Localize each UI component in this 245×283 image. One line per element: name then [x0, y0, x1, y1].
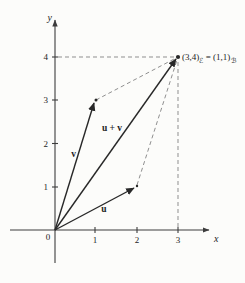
points [95, 55, 181, 187]
y-tick-label-3: 3 [44, 95, 49, 105]
point-1-3-dot [95, 99, 98, 102]
point-annotation-basis1: ℰ [199, 57, 203, 64]
vector-addition-figure: x y 0 1 2 3 1 2 3 4 v u u + v (3,4)ℰ= (1… [0, 0, 245, 283]
dashed-guide-parallelogram-right [137, 60, 177, 185]
point-2-1-dot [136, 185, 138, 187]
point-annotation-basis2: ℬ [231, 57, 237, 64]
vector-v-label: v [71, 149, 76, 159]
vector-u-label: u [101, 204, 107, 214]
point-3-4-dot [176, 55, 180, 59]
y-tick-label-4: 4 [44, 52, 49, 62]
origin-label: 0 [46, 232, 51, 242]
x-tick-label-1: 1 [93, 235, 98, 245]
vector-u-line [55, 188, 134, 230]
figure-canvas: x y 0 1 2 3 1 2 3 4 v u u + v (3,4)ℰ= (1… [0, 0, 245, 283]
y-axis-label: y [47, 12, 53, 23]
point-annotation-coords: (3,4) [182, 52, 199, 62]
x-tick-label-2: 2 [135, 235, 140, 245]
vector-u-plus-v-label: u + v [102, 123, 122, 133]
y-tick-label-1: 1 [44, 182, 49, 192]
point-annotation: (3,4)ℰ= (1,1)ℬ [182, 52, 237, 64]
y-tick-label-2: 2 [44, 139, 49, 149]
x-tick-label-3: 3 [176, 235, 181, 245]
vector-v-line [55, 103, 94, 230]
point-annotation-equals: = (1,1) [206, 52, 231, 62]
vectors [55, 59, 176, 230]
vector-u-plus-v-line [55, 59, 176, 230]
x-axis-label: x [213, 233, 219, 244]
dashed-guide-parallelogram-top [96, 58, 176, 100]
